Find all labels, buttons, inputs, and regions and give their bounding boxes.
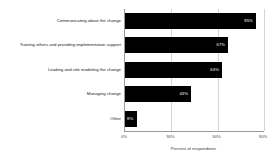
category-label: Leading and role modeling the change <box>0 62 121 78</box>
category-label: Managing change <box>0 86 121 102</box>
bar <box>125 13 256 29</box>
bar-value-label: 85% <box>244 13 253 29</box>
bar-row: 67% <box>125 33 279 57</box>
bar-row: 85% <box>125 9 279 33</box>
x-tick-label: 0% <box>121 134 127 139</box>
bar-value-label: 8% <box>127 111 133 127</box>
x-tick-label: 60% <box>212 134 220 139</box>
bar-row: 63% <box>125 58 279 82</box>
bar-row: 8% <box>125 107 279 131</box>
x-tick-label: 30% <box>166 134 174 139</box>
bar-chart: Communicating about the changeTraining o… <box>0 0 279 162</box>
bar-value-label: 67% <box>216 37 225 53</box>
plot-area: 85%67%63%43%8% <box>124 9 264 132</box>
bar <box>125 37 228 53</box>
x-tick-label: 90% <box>259 134 267 139</box>
bar <box>125 62 222 78</box>
bar-value-label: 43% <box>179 86 188 102</box>
category-label: Other <box>0 111 121 127</box>
x-axis-title: Percent of respondents <box>124 146 263 151</box>
category-label: Communicating about the change <box>0 13 121 29</box>
category-label: Training others and providing implementa… <box>0 37 121 53</box>
bar-value-label: 63% <box>210 62 219 78</box>
bar-row: 43% <box>125 82 279 106</box>
